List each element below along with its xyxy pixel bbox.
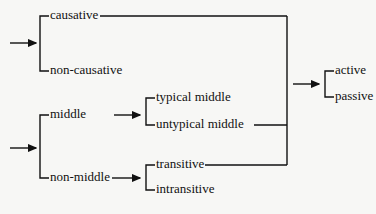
bracket-middle — [40, 115, 50, 178]
option-typical-middle: typical middle — [155, 90, 232, 104]
option-causative: causative — [49, 8, 99, 22]
option-active: active — [334, 63, 367, 77]
option-transitive: transitive — [155, 157, 205, 171]
option-untypical-middle: untypical middle — [155, 117, 245, 131]
option-passive: passive — [334, 89, 374, 103]
option-middle: middle — [49, 107, 87, 121]
option-intransitive: intransitive — [155, 182, 216, 196]
option-non-causative: non-causative — [49, 63, 123, 77]
system-network-diagram: causative non-causative middle non-middl… — [0, 0, 376, 214]
option-non-middle: non-middle — [49, 170, 111, 184]
